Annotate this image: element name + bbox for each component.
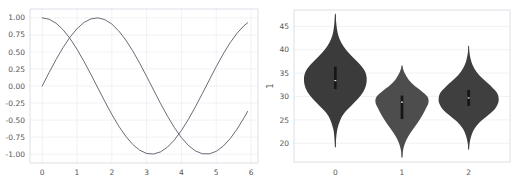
ytick-label: -1.00 xyxy=(6,150,26,159)
ytick-label: -0.25 xyxy=(6,99,26,108)
violin-median-1 xyxy=(401,102,403,103)
xtick-label: 0 xyxy=(40,168,45,177)
violin-plot-svg: 202530354045 012 1 xyxy=(264,0,528,190)
ytick-label: 20 xyxy=(279,139,289,148)
ytick-label: 1.00 xyxy=(8,13,25,22)
ytick-label: -0.75 xyxy=(6,133,26,142)
xtick-label: 2 xyxy=(466,168,471,177)
violin-quartile-box-1 xyxy=(401,96,404,119)
ytick-label: 0.00 xyxy=(8,82,25,91)
line-plot-panel: 1.000.750.500.250.00-0.25-0.50-0.75-1.00… xyxy=(0,0,264,190)
ytick-label: 45 xyxy=(279,22,289,31)
ytick-label: 0.25 xyxy=(8,65,25,74)
ytick-label: 25 xyxy=(279,116,289,125)
line-plot-ytick-labels: 1.000.750.500.250.00-0.25-0.50-0.75-1.00 xyxy=(6,13,26,158)
violin-quartile-box-0 xyxy=(334,67,337,89)
xtick-label: 4 xyxy=(179,168,184,177)
violin-plot-panel: 202530354045 012 1 xyxy=(264,0,528,190)
figure-container: 1.000.750.500.250.00-0.25-0.50-0.75-1.00… xyxy=(0,0,528,190)
xtick-label: 5 xyxy=(214,168,219,177)
ytick-label: -0.50 xyxy=(6,116,26,125)
violin-plot-xtick-labels: 012 xyxy=(333,168,471,177)
yaxis-title: 1 xyxy=(266,83,275,88)
violin-plot-ytick-labels: 202530354045 xyxy=(279,22,289,148)
violin-median-0 xyxy=(334,80,336,81)
ytick-label: 30 xyxy=(279,92,289,101)
line-plot-svg: 1.000.750.500.250.00-0.25-0.50-0.75-1.00… xyxy=(0,0,264,190)
line-plot-gridlines xyxy=(30,9,258,163)
violin-plot-yaxis-title: 1 xyxy=(266,83,275,88)
ytick-label: 40 xyxy=(279,45,289,54)
violin-median-2 xyxy=(468,97,470,98)
xtick-label: 1 xyxy=(400,168,405,177)
xtick-label: 6 xyxy=(249,168,254,177)
line-plot-xtick-labels: 0123456 xyxy=(40,168,254,177)
ytick-label: 0.75 xyxy=(8,30,25,39)
xtick-label: 2 xyxy=(109,168,114,177)
xtick-label: 3 xyxy=(144,168,149,177)
ytick-label: 0.50 xyxy=(8,48,25,57)
xtick-label: 0 xyxy=(333,168,338,177)
ytick-label: 35 xyxy=(279,69,289,78)
violin-plot-bodies xyxy=(304,13,499,158)
xtick-label: 1 xyxy=(75,168,80,177)
